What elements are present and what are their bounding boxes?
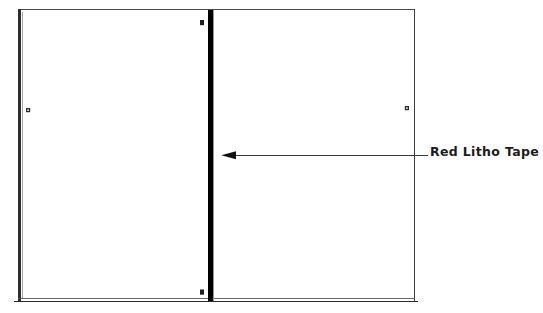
mark-tape-top — [200, 20, 204, 25]
callout-arrowhead-icon — [221, 151, 236, 159]
registration-marks — [26, 20, 409, 295]
tape-callout-label: Red Litho Tape — [430, 146, 539, 159]
red-litho-tape-strip — [208, 10, 214, 301]
tape-callout-leader — [221, 151, 428, 159]
tape-body — [208, 10, 213, 301]
mark-right-panel-center — [406, 107, 408, 109]
diagram-canvas: Red Litho Tape — [0, 0, 543, 313]
mark-tape-bottom — [200, 290, 204, 295]
mark-left-panel-center — [27, 109, 29, 111]
tape-edge-shadow — [213, 10, 214, 301]
